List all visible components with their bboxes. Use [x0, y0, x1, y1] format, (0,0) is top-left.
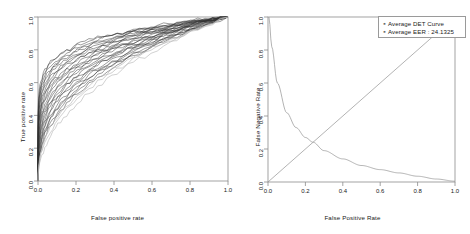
det-x-tick: 0.8	[413, 188, 421, 194]
det-y-tick: 0.0	[258, 182, 264, 190]
roc-y-tick: 0.2	[28, 148, 34, 156]
legend-item-det-curve: ▪ Average DET Curve	[381, 19, 461, 27]
roc-x-tick: 1.0	[224, 187, 232, 193]
det-x-tick: 1.0	[451, 188, 459, 194]
det-y-tick: 0.4	[258, 116, 264, 124]
figure-canvas: False positive rate True positive rate 0…	[0, 0, 470, 234]
det-x-tick: 0.6	[376, 188, 384, 194]
roc-panel: False positive rate True positive rate 0…	[0, 0, 235, 234]
legend-marker-icon: ▪	[381, 20, 388, 27]
roc-y-tick: 0.8	[28, 50, 34, 58]
det-panel: False Positive Rate False Negative Rate …	[235, 0, 470, 234]
roc-y-tick: 0.0	[28, 181, 34, 189]
det-x-tick: 0.2	[301, 188, 309, 194]
det-x-axis-title: False Positive Rate	[235, 214, 470, 221]
roc-x-axis-title: False positive rate	[0, 214, 235, 221]
roc-y-tick: 1.0	[28, 17, 34, 25]
roc-y-tick: 0.6	[28, 83, 34, 91]
det-y-tick: 1.0	[258, 17, 264, 25]
roc-y-tick: 0.4	[28, 115, 34, 123]
roc-x-tick: 0.6	[148, 187, 156, 193]
det-y-tick: 0.8	[258, 50, 264, 58]
legend-marker-icon: ▪	[381, 28, 388, 35]
roc-x-tick: 0.4	[110, 187, 118, 193]
roc-x-tick: 0.0	[34, 187, 42, 193]
roc-x-tick: 0.8	[186, 187, 194, 193]
roc-x-tick: 0.2	[72, 187, 80, 193]
legend-label-det-curve: Average DET Curve	[388, 20, 444, 27]
legend-item-eer: ▪ Average EER : 24.1325	[381, 27, 461, 35]
det-x-tick: 0.0	[264, 188, 272, 194]
legend-label-eer: Average EER : 24.1325	[388, 28, 454, 35]
det-y-tick: 0.2	[258, 149, 264, 157]
roc-y-axis-title: True positive rate	[19, 57, 26, 177]
det-y-tick: 0.6	[258, 83, 264, 91]
roc-plot-area	[0, 0, 235, 234]
det-legend: ▪ Average DET Curve ▪ Average EER : 24.1…	[378, 16, 466, 38]
det-x-tick: 0.4	[339, 188, 347, 194]
